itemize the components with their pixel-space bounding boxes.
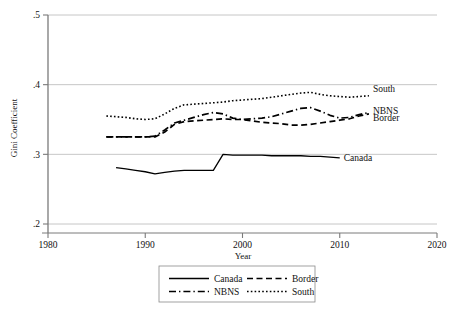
x-tick-label: 2010 (330, 240, 349, 250)
series-end-label-south: South (373, 84, 395, 94)
legend-label-canada: Canada (214, 274, 243, 284)
legend-label-border: Border (292, 274, 319, 284)
data-series-lines (106, 92, 369, 174)
x-tick-label: 1990 (136, 240, 155, 250)
x-tick-label: 2020 (428, 240, 447, 250)
x-axis-title: Year (235, 251, 252, 261)
series-line-border (106, 114, 369, 137)
y-axis-tick-labels: .2.3.4.5 (33, 10, 40, 229)
series-end-label-nbns: NBNS (373, 106, 398, 116)
legend-label-nbns: NBNS (214, 287, 239, 297)
axes (42, 15, 437, 233)
x-tick-label: 1980 (39, 240, 58, 250)
series-end-labels: CanadaBorderNBNSSouth (344, 84, 400, 163)
series-end-label-canada: Canada (344, 153, 373, 163)
legend-label-south: South (292, 287, 314, 297)
chart-canvas: .2.3.4.5 19801990200020102020 CanadaBord… (0, 0, 453, 309)
gini-coefficient-line-chart: .2.3.4.5 19801990200020102020 CanadaBord… (0, 0, 453, 309)
tick-marks (43, 15, 437, 238)
x-axis-tick-labels: 19801990200020102020 (39, 240, 447, 250)
y-tick-label: .3 (33, 150, 40, 160)
legend: CanadaBorderNBNSSouth (159, 266, 319, 302)
y-axis-title: Gini Coefficient (9, 98, 19, 157)
y-tick-label: .4 (33, 80, 40, 90)
series-line-nbns (106, 108, 369, 137)
y-tick-label: .5 (33, 10, 40, 20)
series-line-canada (116, 154, 340, 174)
x-tick-label: 2000 (233, 240, 252, 250)
y-tick-label: .2 (33, 219, 40, 229)
